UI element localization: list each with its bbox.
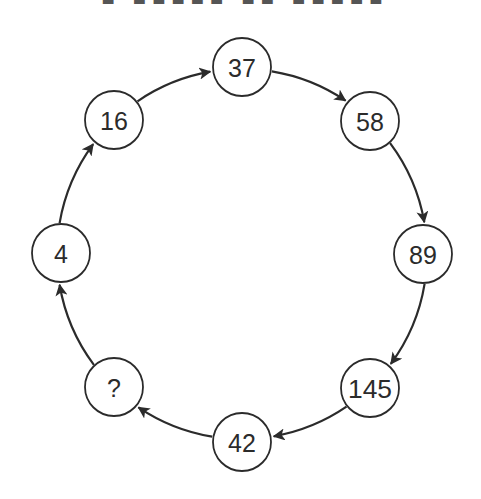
node-label: 4 (54, 240, 68, 268)
arrow-edge (391, 284, 425, 364)
number-node: 145 (341, 359, 399, 417)
number-node: 58 (341, 92, 399, 150)
number-node: 37 (213, 38, 271, 96)
nodes: 41637588914542? (32, 38, 452, 471)
node-label: ? (107, 374, 121, 402)
node-label: 16 (100, 107, 128, 135)
arrow-edge (138, 72, 211, 102)
unknown-node: ? (85, 358, 143, 416)
number-node: 89 (394, 225, 452, 283)
arrow-edge (138, 407, 212, 436)
node-label: 42 (228, 429, 256, 457)
arrow-edge (390, 143, 424, 222)
number-node: 42 (213, 413, 271, 471)
node-label: 145 (348, 375, 392, 403)
cycle-diagram: 41637588914542? (0, 0, 481, 499)
arrow-edge (272, 71, 346, 100)
number-node: 16 (85, 91, 143, 149)
node-label: 58 (356, 108, 384, 136)
node-label: 37 (228, 54, 256, 82)
node-label: 89 (409, 241, 437, 269)
number-node: 4 (32, 224, 90, 282)
arrow-edge (274, 407, 347, 437)
arrow-edge (60, 285, 94, 365)
arrow-edge (60, 144, 94, 223)
